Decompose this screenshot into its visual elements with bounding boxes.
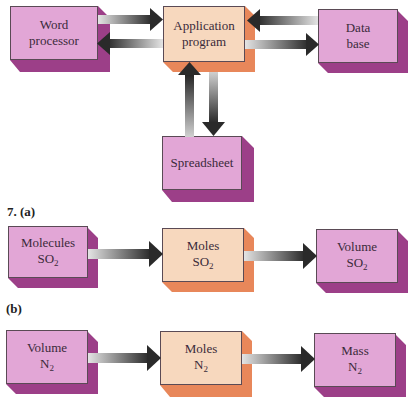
arrow-right-icon: [244, 243, 317, 269]
arrow-up-icon: [178, 62, 201, 137]
arrow-down-icon: [202, 72, 225, 136]
arrow-right-icon: [88, 345, 161, 371]
arrow-right-icon: [245, 33, 319, 56]
arrow-left-icon: [97, 32, 163, 55]
arrow-right-icon: [242, 346, 315, 372]
arrow-left-icon: [247, 9, 318, 32]
arrow-right-icon: [88, 241, 163, 267]
arrows-layer: [0, 0, 412, 400]
arrow-right-icon: [98, 8, 163, 31]
